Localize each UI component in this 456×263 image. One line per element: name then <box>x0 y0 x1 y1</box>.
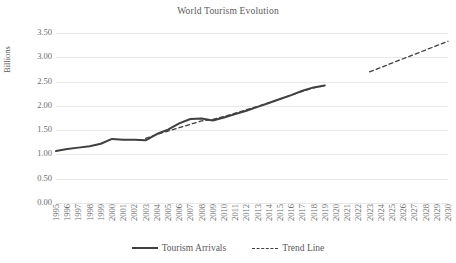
x-tick-label: 2009 <box>209 204 218 221</box>
x-tick-label: 1997 <box>74 204 83 221</box>
x-tick-label: 2023 <box>366 204 375 221</box>
x-tick-label: 2018 <box>310 204 319 221</box>
x-tick-label: 2017 <box>298 204 307 221</box>
legend-item[interactable]: Tourism Arrivals <box>132 243 227 253</box>
legend-swatch-solid-icon <box>132 247 158 249</box>
y-tick-label: 3.00 <box>24 52 52 61</box>
x-tick-label: 2000 <box>108 204 117 221</box>
x-tick-label: 1998 <box>86 204 95 221</box>
x-tick-label: 2016 <box>287 204 296 221</box>
y-tick-label: 1.00 <box>24 149 52 158</box>
x-tick-label: 1999 <box>97 204 106 221</box>
x-tick-label: 2011 <box>231 204 240 221</box>
x-tick-label: 2021 <box>343 204 352 221</box>
x-tick-label: 2028 <box>422 204 431 221</box>
series-line-trend-line <box>146 41 448 138</box>
legend-swatch-dashed-icon <box>252 248 278 249</box>
x-tick-label: 2005 <box>164 204 173 221</box>
y-axis-tick-labels: 3.503.002.502.001.501.000.500.00 <box>20 33 52 203</box>
y-tick-label: 2.50 <box>24 77 52 86</box>
x-tick-label: 2015 <box>276 204 285 221</box>
series-line-tourism-arrivals <box>56 85 325 151</box>
x-tick-label: 2030 <box>444 204 453 221</box>
x-tick-label: 2006 <box>175 204 184 221</box>
x-tick-label: 2019 <box>321 204 330 221</box>
y-tick-label: 0.00 <box>24 198 52 207</box>
x-tick-label: 2020 <box>332 204 341 221</box>
x-tick-label: 2008 <box>198 204 207 221</box>
y-tick-label: 1.50 <box>24 125 52 134</box>
y-tick-label: 3.50 <box>24 28 52 37</box>
x-tick-label: 2029 <box>433 204 442 221</box>
x-tick-label: 2010 <box>220 204 229 221</box>
x-tick-label: 1995 <box>52 204 61 221</box>
x-tick-label: 2013 <box>254 204 263 221</box>
chart-container: World Tourism Evolution Billions 3.503.0… <box>0 0 456 263</box>
x-tick-label: 2002 <box>130 204 139 221</box>
x-tick-label: 2012 <box>242 204 251 221</box>
x-tick-label: 2022 <box>354 204 363 221</box>
plot-area <box>56 33 448 203</box>
chart-title: World Tourism Evolution <box>0 6 456 16</box>
chart-legend: Tourism ArrivalsTrend Line <box>0 243 456 253</box>
x-tick-label: 2027 <box>410 204 419 221</box>
legend-item[interactable]: Trend Line <box>252 243 324 253</box>
legend-label: Trend Line <box>282 243 324 253</box>
x-tick-label: 2003 <box>142 204 151 221</box>
x-tick-label: 2024 <box>377 204 386 221</box>
x-tick-label: 2025 <box>388 204 397 221</box>
x-tick-label: 1996 <box>63 204 72 221</box>
x-tick-label: 2004 <box>153 204 162 221</box>
legend-label: Tourism Arrivals <box>162 243 227 253</box>
x-tick-label: 2001 <box>119 204 128 221</box>
y-tick-label: 2.00 <box>24 101 52 110</box>
series-svg <box>56 33 448 203</box>
y-axis-title: Billions <box>2 30 16 90</box>
y-tick-label: 0.50 <box>24 174 52 183</box>
x-axis-tick-labels: 1995199619971998199920002001200220032004… <box>56 204 448 244</box>
x-tick-label: 2007 <box>186 204 195 221</box>
x-tick-label: 2026 <box>399 204 408 221</box>
x-tick-label: 2014 <box>265 204 274 221</box>
